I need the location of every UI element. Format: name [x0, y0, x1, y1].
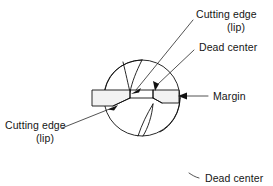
- drill-point-diagram: Cutting edge (lip) Dead center Margin Cu…: [0, 0, 273, 186]
- left-margin-band: [92, 90, 130, 106]
- label-cutting-edge-lower-line2: (lip): [36, 132, 54, 144]
- arrow-dead-center-upper: [153, 81, 159, 91]
- label-cutting-edge-lower-line1: Cutting edge: [5, 119, 66, 131]
- label-dead-center-lower: Dead center: [205, 172, 264, 184]
- upper-flute-curve: [130, 60, 142, 92]
- diagram-canvas: Cutting edge (lip) Dead center Margin Cu…: [0, 0, 273, 186]
- label-margin: Margin: [213, 90, 246, 102]
- label-group: Cutting edge (lip) Dead center Margin Cu…: [5, 8, 264, 184]
- callout-leaders-group: [62, 20, 208, 178]
- upper-flute-inner-curve: [123, 62, 130, 92]
- leader-cutting-edge-lower: [62, 108, 112, 128]
- leader-dead-center-lower: [189, 173, 199, 178]
- right-margin-band: [153, 90, 179, 103]
- label-dead-center-upper: Dead center: [199, 41, 258, 53]
- drill-body-group: [92, 60, 180, 136]
- label-cutting-edge-upper-line1: Cutting edge: [196, 8, 257, 20]
- label-cutting-edge-upper-line2: (lip): [227, 21, 245, 33]
- leader-cutting-edge-upper: [136, 20, 193, 90]
- arrow-cutting-edge-upper: [131, 88, 141, 94]
